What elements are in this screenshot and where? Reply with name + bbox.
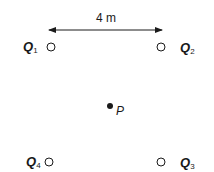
charge-q4-circle [45, 158, 53, 166]
charge-q3-label: Q3 [180, 156, 195, 171]
point-p-label: P [116, 105, 124, 117]
charge-q1-label: Q1 [23, 40, 38, 55]
charge-q4-label: Q4 [26, 155, 41, 170]
charge-q3-circle [157, 158, 165, 166]
charge-q2-circle [157, 43, 165, 51]
point-p-dot [107, 103, 113, 109]
distance-label: 4 m [96, 12, 116, 24]
charge-q2-label: Q2 [180, 41, 195, 56]
diagram-canvas [0, 0, 214, 172]
charge-q1-circle [47, 43, 55, 51]
